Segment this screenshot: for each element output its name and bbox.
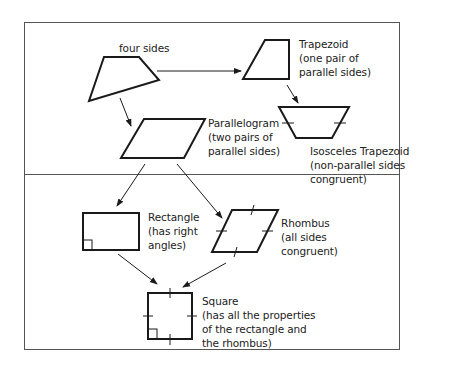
node-desc: (has all the properties bbox=[202, 308, 315, 322]
trapezoid-shape bbox=[243, 40, 289, 79]
arrow-rhombus-to-square bbox=[183, 263, 226, 287]
right-angle-mark bbox=[148, 329, 157, 339]
node-desc: (has right bbox=[148, 224, 199, 238]
node-desc: (two pairs of bbox=[208, 130, 280, 144]
arrow-quad-to-parallelogram bbox=[120, 98, 131, 126]
rectangle-shape bbox=[83, 213, 139, 250]
node-desc: (non-parallel sides bbox=[310, 158, 409, 172]
label-square: Square (has all the properties of the re… bbox=[202, 294, 315, 350]
arrow-rectangle-to-square bbox=[118, 254, 157, 284]
label-trapezoid: Trapezoid (one pair of parallel sides) bbox=[299, 37, 371, 79]
label-isosceles-trapezoid: Isosceles Trapezoid (non-parallel sides … bbox=[310, 144, 409, 186]
quadrilateral-shape bbox=[89, 57, 159, 101]
arrow-parallelogram-to-rectangle bbox=[117, 164, 145, 206]
node-desc: congruent) bbox=[310, 172, 409, 186]
node-name: Rhombus bbox=[281, 216, 338, 230]
right-angle-mark bbox=[83, 240, 92, 250]
node-desc: congruent) bbox=[281, 244, 338, 258]
label-parallelogram: Parallelogram (two pairs of parallel sid… bbox=[208, 116, 280, 158]
label-quadrilateral: four sides bbox=[119, 41, 169, 55]
node-desc: angles) bbox=[148, 238, 199, 252]
node-desc: (all sides bbox=[281, 230, 338, 244]
arrow-trapezoid-to-isosceles bbox=[287, 85, 298, 103]
node-name: Rectangle bbox=[148, 210, 199, 224]
square-shape bbox=[148, 293, 192, 339]
node-desc: parallel sides) bbox=[208, 144, 280, 158]
node-desc: of the rectangle and bbox=[202, 322, 315, 336]
parallelogram-shape bbox=[121, 119, 205, 158]
node-desc: the rhombus) bbox=[202, 336, 315, 350]
node-desc: (one pair of bbox=[299, 51, 371, 65]
node-name: Square bbox=[202, 294, 315, 308]
node-desc: parallel sides) bbox=[299, 65, 371, 79]
label-rectangle: Rectangle (has right angles) bbox=[148, 210, 199, 252]
node-name: Isosceles Trapezoid bbox=[310, 144, 409, 158]
node-name: Parallelogram bbox=[208, 116, 280, 130]
node-name: Trapezoid bbox=[299, 37, 371, 51]
label-rhombus: Rhombus (all sides congruent) bbox=[281, 216, 338, 258]
